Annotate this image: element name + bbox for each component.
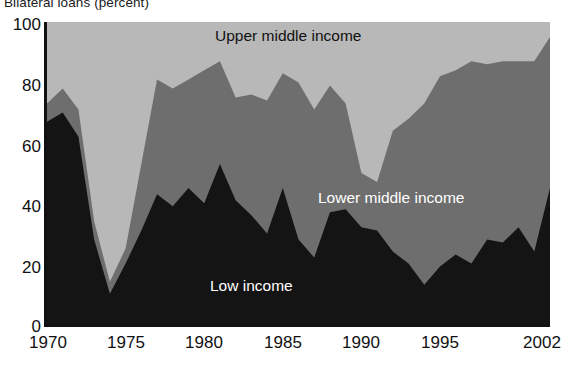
x-tick-1970: 1970 [29,334,67,351]
x-tick-1995: 1995 [421,334,459,351]
chart-page: Bilateral loans (percent) 100 80 60 40 2… [0,0,567,375]
x-axis-labels: 1970 1975 1980 1985 1990 1995 2002 [0,0,567,375]
x-tick-1980: 1980 [185,334,223,351]
x-tick-2002: 2002 [523,334,561,351]
x-tick-1990: 1990 [342,334,380,351]
x-tick-1985: 1985 [264,334,302,351]
x-tick-1975: 1975 [107,334,145,351]
